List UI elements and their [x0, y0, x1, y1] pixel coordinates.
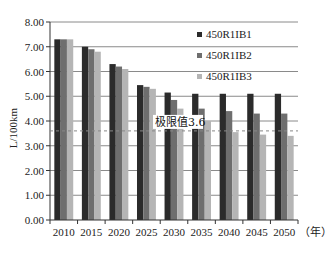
bar-450R1IB3-2010	[67, 39, 73, 220]
y-tick-label: 4.00	[25, 115, 45, 127]
x-tick-label: 2045	[246, 226, 269, 238]
bar-chart: 0.001.002.003.004.005.006.007.008.00 201…	[0, 0, 336, 253]
y-axis-label: L/100km	[7, 107, 19, 148]
y-tick-label: 8.00	[25, 16, 45, 28]
y-tick-label: 6.00	[25, 66, 45, 78]
bar-450R1IB1-2050	[275, 94, 281, 220]
y-tick-label: 2.00	[25, 165, 45, 177]
bar-450R1IB3-2025	[150, 89, 156, 220]
bar-450R1IB2-2045	[254, 114, 260, 220]
bar-450R1IB3-2020	[122, 69, 128, 220]
legend-label: 450R1IB3	[206, 70, 252, 82]
y-tick-label: 0.00	[25, 214, 45, 226]
bar-450R1IB1-2015	[82, 47, 88, 220]
bar-450R1IB2-2020	[116, 67, 122, 220]
bar-450R1IB1-2020	[109, 64, 115, 220]
bar-450R1IB2-2025	[143, 87, 149, 220]
legend-label: 450R1IB1	[206, 28, 252, 40]
bar-450R1IB2-2040	[226, 111, 232, 220]
bar-450R1IB3-2045	[260, 135, 266, 220]
bar-series	[54, 39, 293, 220]
bar-450R1IB3-2015	[94, 52, 100, 220]
y-tick-label: 5.00	[25, 90, 45, 102]
x-tick-label: 2050	[273, 226, 296, 238]
bar-450R1IB3-2040	[232, 132, 238, 220]
y-tick-label: 1.00	[25, 189, 45, 201]
y-tick-label: 7.00	[25, 41, 45, 53]
bar-450R1IB2-2050	[281, 114, 287, 220]
bar-450R1IB3-2050	[287, 136, 293, 220]
bar-450R1IB1-2045	[247, 94, 253, 220]
y-axis-ticks: 0.001.002.003.004.005.006.007.008.00	[25, 16, 50, 226]
bar-450R1IB2-2015	[88, 49, 94, 220]
legend-swatch	[197, 32, 202, 37]
x-tick-label: 2020	[108, 226, 131, 238]
legend-label: 450R1IB2	[206, 49, 252, 61]
legend-swatch	[197, 53, 202, 58]
y-tick-label: 3.00	[25, 140, 45, 152]
x-axis-unit-label: （年）	[299, 225, 332, 238]
bar-450R1IB1-2030	[165, 93, 171, 220]
legend: 450R1IB1450R1IB2450R1IB3	[197, 28, 252, 82]
bar-450R1IB1-2040	[220, 94, 226, 220]
limit-label: 极限值3.6	[155, 115, 206, 129]
x-tick-label: 2010	[53, 226, 76, 238]
bar-450R1IB1-2025	[137, 85, 143, 220]
x-tick-label: 2015	[80, 226, 103, 238]
x-tick-label: 2040	[218, 226, 241, 238]
bar-450R1IB1-2035	[192, 94, 198, 220]
x-axis-ticks: 201020152020202520302035204020452050	[50, 220, 298, 238]
bar-450R1IB2-2010	[61, 39, 67, 220]
x-tick-label: 2030	[163, 226, 186, 238]
x-tick-label: 2035	[191, 226, 214, 238]
bar-450R1IB3-2035	[205, 121, 211, 220]
bar-450R1IB1-2010	[54, 39, 60, 220]
legend-swatch	[197, 74, 202, 79]
x-tick-label: 2025	[135, 226, 158, 238]
